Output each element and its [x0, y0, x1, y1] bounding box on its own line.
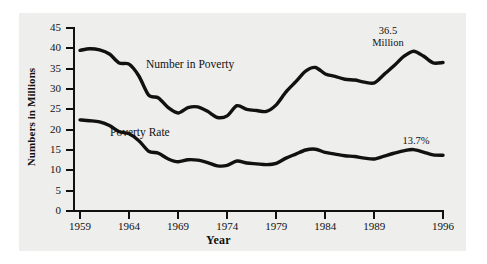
x-tick-label-1996: 1996	[423, 220, 463, 232]
y-tick-label-25: 25	[35, 102, 61, 114]
series-label-poverty-rate: Poverty Rate	[110, 126, 170, 138]
x-tick-label-1984: 1984	[305, 220, 345, 232]
y-tick-label-45: 45	[35, 21, 61, 33]
y-tick-label-35: 35	[35, 62, 61, 74]
y-tick-label-20: 20	[35, 123, 61, 135]
y-tick-label-10: 10	[35, 163, 61, 175]
y-tick-label-5: 5	[35, 184, 61, 196]
x-tick-label-1989: 1989	[354, 220, 394, 232]
x-tick-label-1964: 1964	[109, 220, 149, 232]
annotation-number-end-value: 36.5 Million	[356, 25, 420, 49]
x-tick-label-1969: 1969	[158, 220, 198, 232]
x-tick-marks	[80, 211, 443, 219]
y-tick-marks	[66, 28, 74, 211]
x-tick-label-1979: 1979	[256, 220, 296, 232]
y-tick-label-0: 0	[35, 204, 61, 216]
annotation-number-value: 36.5	[356, 25, 420, 37]
y-tick-label-30: 30	[35, 82, 61, 94]
annotation-number-unit: Million	[356, 37, 420, 49]
y-tick-label-15: 15	[35, 143, 61, 155]
x-axis-title: Year	[206, 233, 231, 248]
annotation-rate-end-value: 13.7%	[391, 135, 441, 147]
series-line-number-in-poverty	[80, 49, 443, 118]
poverty-chart-figure: 454035302520151050 195919641969197419791…	[0, 0, 487, 264]
x-tick-label-1974: 1974	[207, 220, 247, 232]
y-axis-title: Numbers in Millions	[25, 57, 37, 177]
y-tick-label-40: 40	[35, 41, 61, 53]
series-label-number-in-poverty: Number in Poverty	[146, 58, 234, 70]
x-tick-label-1959: 1959	[60, 220, 100, 232]
